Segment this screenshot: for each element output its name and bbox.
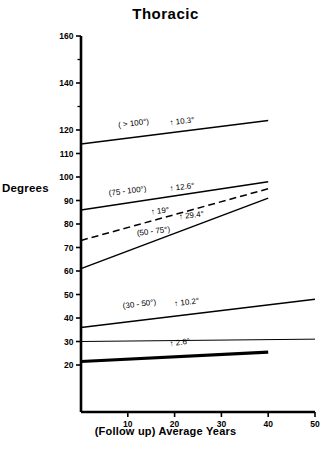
series-line [81,352,268,361]
y-tick-label: 120 [59,125,73,135]
series-annotation: ↑ 10.2° [174,296,200,308]
y-tick-label: 70 [64,243,74,253]
y-tick-label: 140 [59,78,73,88]
plot-area: 2030405060708090100110120140160 10203040… [0,0,331,450]
series-annotation: (30 - 50°) [122,298,157,311]
x-tick-label: 20 [170,419,180,429]
y-tick-label: 20 [64,360,74,370]
series-annotation: ↑ 29.4° [178,209,204,221]
x-axis: 1020304050 [81,412,320,429]
y-tick-label: 30 [64,337,74,347]
series-annotation: ↑ 2.6° [169,337,190,348]
y-tick-label: 80 [64,219,74,229]
y-tick-label: 100 [59,172,73,182]
chart-figure: Thoracic Degrees (Follow up) Average Yea… [0,0,331,450]
series-annotation: ↑ 12.6° [169,181,195,193]
x-tick-label: 40 [263,419,273,429]
series-annotation: ↑ 19° [150,205,169,216]
series-lines [81,121,315,362]
y-tick-label: 60 [64,266,74,276]
x-tick-label: 50 [310,419,320,429]
x-tick-label: 10 [123,419,133,429]
y-axis: 2030405060708090100110120140160 [59,31,81,412]
y-tick-label: 50 [64,290,74,300]
x-tick-label: 30 [217,419,227,429]
series-line [81,339,315,341]
y-tick-label: 90 [64,196,74,206]
series-annotation: ↑ 10.3° [169,115,195,127]
series-annotation: (50 - 75°) [136,225,171,238]
annotations: ( > 100°)↑ 10.3°(75 - 100°)↑ 12.6°↑ 19°↑… [108,115,204,348]
y-tick-label: 40 [64,313,74,323]
y-tick-label: 160 [59,31,73,41]
series-annotation: ( > 100°) [118,117,150,130]
y-tick-label: 110 [60,149,74,159]
series-annotation: (75 - 100°) [108,184,147,198]
